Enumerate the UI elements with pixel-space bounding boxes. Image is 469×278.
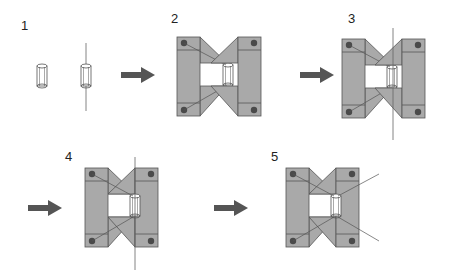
step-4-assembly bbox=[85, 157, 158, 270]
step-3-assembly bbox=[342, 28, 425, 140]
step-5-assembly bbox=[286, 168, 379, 247]
arrow-right-icon bbox=[28, 200, 62, 216]
assembly-diagram: 1 2 3 4 5 bbox=[0, 0, 469, 278]
arrow-right-icon bbox=[300, 67, 334, 83]
arrow-right-icon bbox=[121, 67, 155, 83]
step-1-cylinder-plain bbox=[37, 64, 47, 88]
arrow-right-icon bbox=[214, 200, 248, 216]
step-2-assembly bbox=[177, 37, 261, 116]
step-1-cylinder-with-axis bbox=[81, 43, 91, 111]
diagram-canvas bbox=[0, 0, 469, 278]
